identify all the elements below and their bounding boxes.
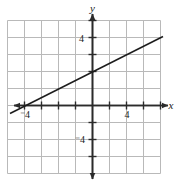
y-tick-label-4: 4 <box>79 33 84 44</box>
x-tick-label-negative-4: ⁻4 <box>20 109 30 120</box>
coordinate-plane-svg: x y ⁻4 4 4 ⁻4 <box>0 0 181 181</box>
y-axis-label: y <box>89 2 95 14</box>
x-axis-label: x <box>168 99 174 111</box>
figure-background <box>0 0 181 181</box>
coordinate-plane-figure: x y ⁻4 4 4 ⁻4 <box>0 0 181 181</box>
x-tick-label-4: 4 <box>125 109 130 120</box>
y-tick-label-negative-4: ⁻4 <box>75 134 85 145</box>
